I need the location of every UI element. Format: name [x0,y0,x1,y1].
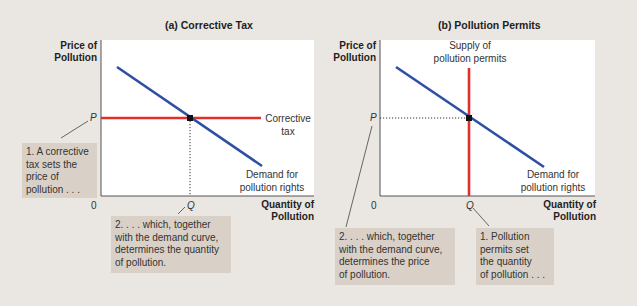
callout-line: 2. . . . which, together [339,231,451,244]
panel-b-leader-2 [346,126,372,227]
callout-line: of pollution . . . [480,269,550,282]
curve-label-line: Supply of [430,40,510,53]
callout-line: determines the price [339,256,451,269]
callout-line: 2. . . . which, together [115,219,227,232]
callout-line: of pollution. [115,257,227,270]
callout-line: 1. Pollution [480,231,550,244]
x-axis-label-line: Quantity of [240,199,314,211]
panel-b-callout-2: 2. . . . which, together with the demand… [335,228,455,285]
panel-b-demand-label: Demand for pollution rights [512,169,594,194]
panel-a-origin: 0 [91,200,97,211]
panel-a-title: (a) Corrective Tax [165,19,253,31]
curve-label-line: Demand for [232,169,312,182]
panel-b-x-axis-label: Quantity of Pollution [520,199,596,223]
y-axis-label-line: Price of [40,40,97,52]
panel-a-callout-2: 2. . . . which, together with the demand… [111,216,231,273]
panel-a-leader-2 [178,207,185,214]
x-axis-label-line: Pollution [240,211,314,223]
panel-b-origin: 0 [371,200,377,211]
panel-b-leader-1 [473,208,489,226]
callout-line: with the demand curve, [115,232,227,245]
curve-label-line: pollution rights [512,182,594,195]
y-axis-label-line: Price of [318,40,376,52]
callout-line: pollution . . . [26,184,93,197]
panel-a-price-tick: P [90,112,97,123]
callout-line: determines the quantity [115,244,227,257]
y-axis-label-line: Pollution [40,52,97,64]
callout-line: price of [26,171,93,184]
curve-label-line: Corrective [262,113,314,126]
x-axis-label-line: Pollution [520,211,596,223]
panel-b-y-axis-label: Price of Pollution [318,40,376,64]
panel-a-quantity-tick: Q [187,200,195,211]
panel-a-y-axis-label: Price of Pollution [40,40,97,64]
x-axis-label-line: Quantity of [520,199,596,211]
panel-b-callout-1: 1. Pollution permits set the quantity of… [476,228,554,285]
callout-line: permits set [480,244,550,257]
panel-a-callout-1: 1. A corrective tax sets the price of po… [22,143,97,198]
callout-line: the quantity [480,256,550,269]
callout-line: tax sets the [26,159,93,172]
panel-a-leader-1 [61,121,88,138]
curve-label-line: Demand for [512,169,594,182]
callout-line: 1. A corrective [26,146,93,159]
callout-line: with the demand curve, [339,244,451,257]
panel-b-title: (b) Pollution Permits [438,19,541,31]
curve-label-line: pollution rights [232,182,312,195]
panel-b-quantity-tick: Q [466,200,474,211]
curve-label-line: tax [262,126,314,139]
curve-label-line: pollution permits [430,53,510,66]
panel-a-demand-label: Demand for pollution rights [232,169,312,194]
y-axis-label-line: Pollution [318,52,376,64]
supply-of-permits-label: Supply of pollution permits [430,40,510,65]
callout-line: of pollution. [339,269,451,282]
panel-a-x-axis-label: Quantity of Pollution [240,199,314,223]
panel-b-price-tick: P [370,112,377,123]
corrective-tax-label: Corrective tax [262,113,314,138]
